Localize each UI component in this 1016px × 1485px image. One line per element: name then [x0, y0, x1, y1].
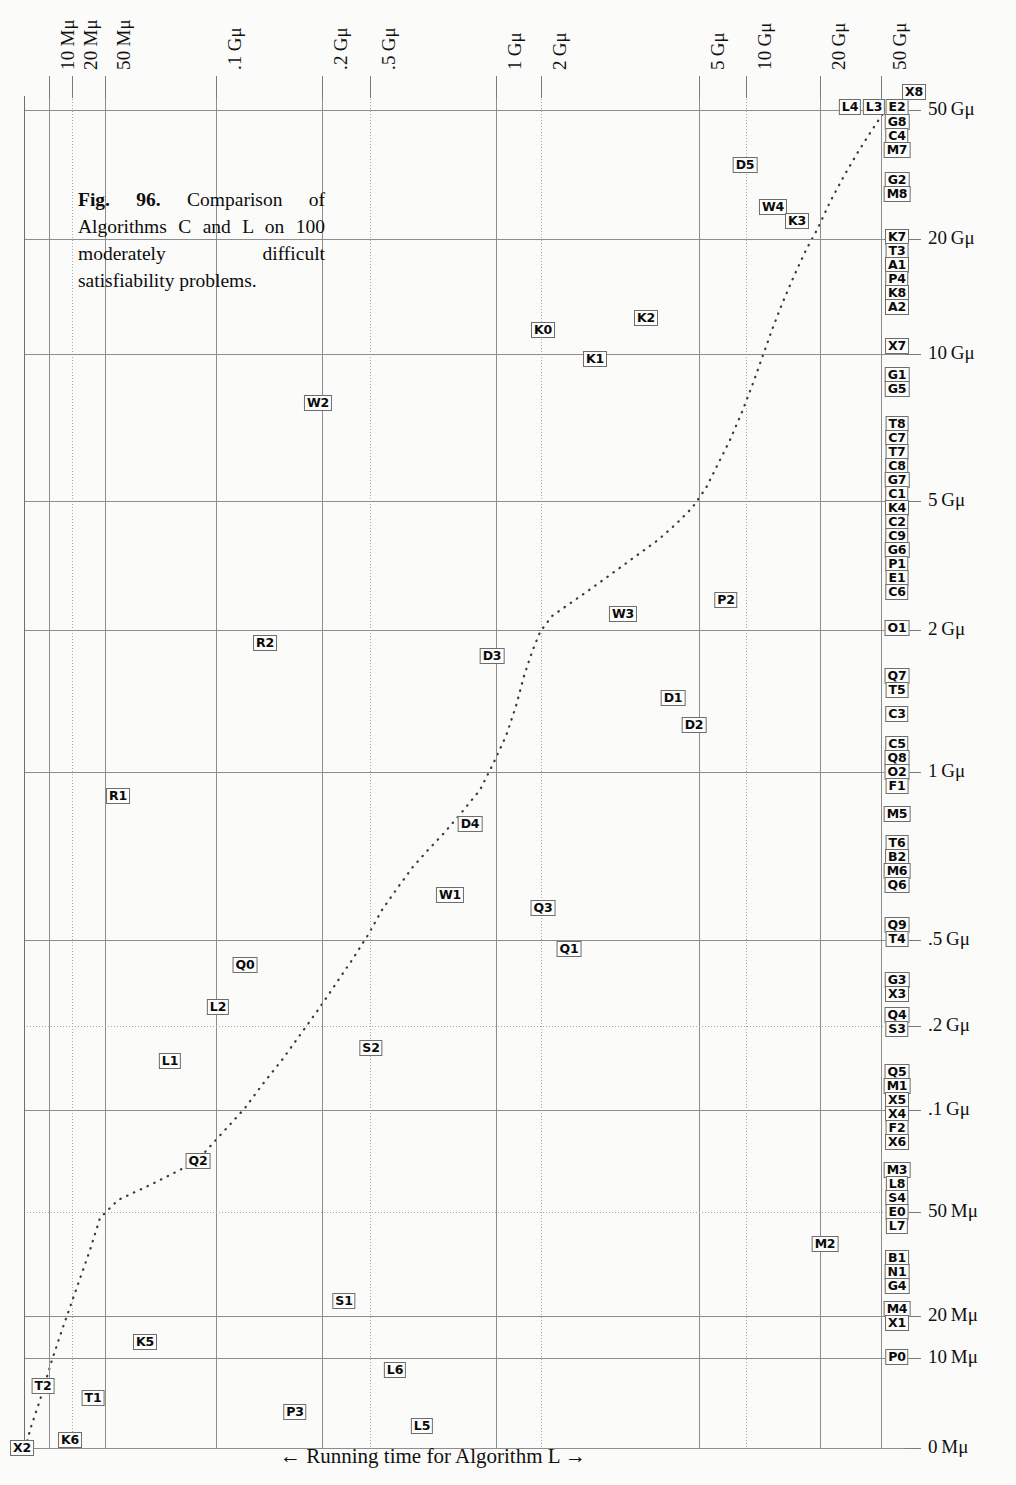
- y-tick-label: 5 Gμ: [928, 489, 965, 511]
- data-point-label: T2: [32, 1378, 55, 1394]
- top-tick-mark: [746, 76, 747, 98]
- data-point-label: C6: [885, 584, 908, 600]
- data-point-label: T5: [886, 682, 909, 698]
- data-point-label: W2: [304, 395, 332, 411]
- data-point-label: P2: [714, 592, 737, 608]
- data-point-label: L2: [207, 999, 229, 1015]
- data-point-label: O1: [885, 620, 910, 636]
- top-tick-mark: [496, 76, 497, 98]
- data-point-label: D2: [682, 717, 707, 733]
- top-tick-mark: [105, 76, 106, 98]
- data-point-label: D1: [661, 690, 686, 706]
- x-tick-label: .1 Gμ: [224, 27, 246, 70]
- figure-96-container: 10 Mμ20 Mμ50 Mμ.1 Gμ.2 Gμ.5 Gμ1 Gμ2 Gμ5 …: [0, 0, 1016, 1485]
- data-point-label: Q3: [531, 900, 556, 916]
- y-tick-label: 10 Gμ: [928, 342, 975, 364]
- data-point-label: P3: [283, 1404, 306, 1420]
- data-point-label: K6: [58, 1432, 82, 1448]
- data-point-label: X8: [902, 84, 926, 100]
- data-point-label: L6: [384, 1362, 406, 1378]
- top-tick-mark: [322, 76, 323, 98]
- data-point-label: Q6: [885, 877, 910, 893]
- data-point-label: M8: [884, 186, 911, 202]
- x-tick-label: 50 Mμ: [113, 19, 135, 70]
- reference-curve: [24, 108, 890, 1445]
- gridline-horizontal: [24, 1212, 914, 1213]
- data-point-label: L1: [159, 1053, 181, 1069]
- data-point-label: K3: [785, 213, 809, 229]
- data-point-label: S2: [359, 1040, 382, 1056]
- data-point-label: D5: [733, 157, 758, 173]
- left-axis-line: [24, 96, 25, 1448]
- x-tick-label: 5 Gμ: [707, 32, 729, 70]
- x-tick-label: 2 Gμ: [549, 32, 571, 70]
- data-point-label: L7: [886, 1218, 908, 1234]
- gridline-horizontal: [24, 772, 914, 773]
- data-point-label: D4: [458, 816, 483, 832]
- top-tick-mark: [541, 76, 542, 98]
- data-point-label: M7: [884, 142, 911, 158]
- data-point-label: S1: [332, 1293, 355, 1309]
- data-point-label: X3: [885, 986, 909, 1002]
- top-tick-mark: [699, 76, 700, 98]
- gridline-horizontal: [24, 1026, 914, 1027]
- y-tick-label: 20 Gμ: [928, 227, 975, 249]
- data-point-label: C3: [885, 706, 908, 722]
- data-point-label: W4: [759, 199, 787, 215]
- data-point-label: L3: [863, 99, 885, 115]
- data-point-label: X1: [885, 1315, 909, 1331]
- data-point-label: R1: [106, 788, 130, 804]
- data-point-label: G4: [885, 1278, 910, 1294]
- data-point-label: K0: [531, 322, 555, 338]
- data-point-label: F1: [886, 778, 909, 794]
- data-point-label: X2: [10, 1440, 34, 1456]
- y-tick-label: .5 Gμ: [928, 928, 970, 950]
- gridline-horizontal: [24, 1110, 914, 1111]
- data-point-label: R2: [253, 635, 277, 651]
- y-tick-label: 0 Mμ: [928, 1436, 968, 1458]
- top-tick-mark: [820, 76, 821, 98]
- data-point-label: Q1: [557, 941, 582, 957]
- plot-area: [24, 108, 890, 1445]
- y-tick-label: 10 Mμ: [928, 1346, 978, 1368]
- data-point-label: X6: [885, 1134, 909, 1150]
- y-tick-label: 50 Gμ: [928, 98, 975, 120]
- x-tick-label: .2 Gμ: [330, 27, 352, 70]
- data-point-label: L4: [839, 99, 861, 115]
- gridline-horizontal: [24, 110, 914, 111]
- data-point-label: X7: [885, 338, 909, 354]
- data-point-label: P0: [885, 1349, 908, 1365]
- data-point-label: K2: [634, 310, 658, 326]
- top-tick-mark: [49, 76, 50, 98]
- figure-caption: Fig. 96. Comparison of Algorithms C and …: [78, 186, 325, 294]
- y-tick-label: 20 Mμ: [928, 1304, 978, 1326]
- data-point-label: A2: [885, 299, 909, 315]
- data-point-label: L5: [411, 1418, 433, 1434]
- data-point-label: Q0: [233, 957, 258, 973]
- data-point-label: M2: [812, 1236, 839, 1252]
- gridline-horizontal: [24, 1358, 914, 1359]
- y-tick-label: 1 Gμ: [928, 760, 965, 782]
- data-point-label: W1: [436, 887, 464, 903]
- gridline-horizontal: [24, 501, 914, 502]
- top-tick-mark: [370, 76, 371, 98]
- x-tick-label: 50 Gμ: [889, 22, 911, 70]
- data-point-label: K1: [583, 351, 607, 367]
- data-point-label: Q2: [186, 1153, 211, 1169]
- data-point-label: D3: [480, 648, 505, 664]
- data-point-label: G5: [885, 381, 910, 397]
- y-tick-label: 50 Mμ: [928, 1200, 978, 1222]
- y-tick-label: .2 Gμ: [928, 1014, 970, 1036]
- data-point-label: T1: [82, 1390, 105, 1406]
- x-tick-label: 20 Gμ: [828, 22, 850, 70]
- gridline-horizontal: [24, 354, 914, 355]
- top-tick-mark: [72, 76, 73, 98]
- gridline-horizontal: [24, 1316, 914, 1317]
- data-point-label: K5: [133, 1334, 157, 1350]
- right-tick-mark: [905, 1448, 921, 1449]
- caption-label: Fig. 96.: [78, 189, 161, 210]
- top-tick-mark: [881, 76, 882, 98]
- data-point-label: W3: [609, 606, 637, 622]
- x-tick-label: 20 Mμ: [80, 19, 102, 70]
- data-point-label: S3: [885, 1021, 908, 1037]
